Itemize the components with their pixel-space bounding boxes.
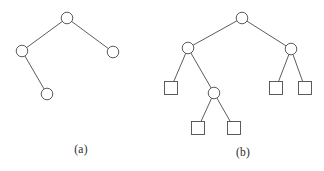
tree-edge (193, 21, 237, 45)
tree-diagram-a (0, 0, 162, 140)
tree-edge (293, 54, 303, 81)
tree-node-circle (41, 88, 53, 100)
tree-node-square (165, 82, 178, 95)
tree-node-circle (107, 46, 119, 58)
tree-node-circle (236, 12, 248, 24)
tree-edge (174, 53, 186, 81)
tree-edge (27, 21, 63, 47)
tree-edge (247, 21, 286, 46)
tree-node-circle (16, 45, 28, 57)
tree-node-circle (61, 12, 73, 24)
tree-edge (191, 53, 211, 88)
tree-edge (279, 54, 289, 81)
figure-panel-b: (b) (162, 0, 324, 171)
tree-node-circle (208, 87, 220, 99)
tree-node-circle (285, 43, 297, 55)
figure-panel-a: (a) (0, 0, 162, 171)
tree-diagram-b (162, 0, 324, 145)
panel-caption-b: (b) (162, 147, 324, 159)
tree-node-square (270, 82, 283, 95)
tree-edge (201, 98, 212, 121)
tree-node-circle (182, 42, 194, 54)
tree-edge (25, 56, 44, 89)
figure-root: (a) (b) (0, 0, 324, 171)
tree-node-square (192, 122, 205, 135)
tree-edge (72, 21, 109, 48)
tree-edge (217, 98, 230, 121)
tree-node-square (299, 82, 312, 95)
tree-node-square (228, 122, 241, 135)
panel-caption-a: (a) (0, 144, 162, 156)
